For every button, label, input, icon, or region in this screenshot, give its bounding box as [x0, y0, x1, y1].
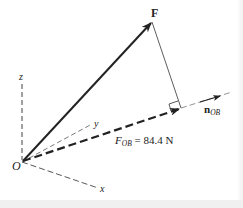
label-axis-y: y: [93, 118, 99, 129]
diagram-canvas: F z y x O nOB FOB = 84.4 N: [0, 0, 243, 208]
y-axis: [22, 124, 92, 162]
label-unit-vector-sub: OB: [210, 108, 220, 117]
label-projection-sub: OB: [122, 139, 132, 148]
unit-vector-nob: [200, 96, 220, 102]
label-projection-value: = 84.4 N: [132, 134, 174, 146]
perpendicular-line: [152, 22, 181, 108]
label-origin-o: O: [12, 159, 21, 173]
vector-diagram: F z y x O nOB FOB = 84.4 N: [0, 0, 243, 208]
label-unit-vector: nOB: [204, 103, 221, 117]
x-axis: [22, 162, 98, 188]
label-axis-x: x: [99, 183, 105, 194]
label-axis-z: z: [18, 71, 23, 82]
label-force-f: F: [151, 6, 158, 20]
label-projection: FOB = 84.4 N: [114, 134, 173, 148]
